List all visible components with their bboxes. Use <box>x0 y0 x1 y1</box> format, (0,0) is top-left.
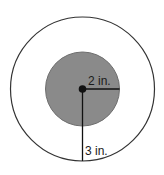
center-dot <box>79 85 87 93</box>
diagram-canvas: 2 in. 3 in. <box>0 0 164 175</box>
inner-radius-label: 2 in. <box>88 74 111 88</box>
concentric-circles-diagram: 2 in. 3 in. <box>0 0 164 175</box>
outer-radius-label: 3 in. <box>85 144 108 158</box>
